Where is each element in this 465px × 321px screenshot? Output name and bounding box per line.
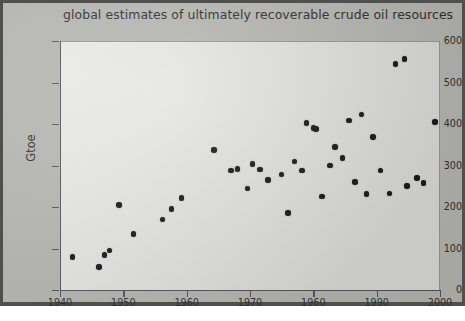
x-tick-label: 1990 [354,297,400,308]
scanned-chart-page: global estimates of ultimately recoverab… [0,0,465,306]
y-tick-label: 200 [418,201,462,212]
x-tick-label: 2000 [417,297,463,308]
x-tick-mark [123,290,124,297]
data-point [116,202,122,208]
data-point [96,264,102,270]
data-point [370,134,376,140]
x-tick-label: 1970 [227,297,273,308]
y-axis-label: Gtoe [24,118,38,178]
data-point [332,144,338,150]
x-tick-label: 1960 [164,297,210,308]
x-tick-mark [313,290,314,297]
x-tick-mark [250,290,251,297]
y-tick-mark [52,290,59,291]
x-tick-label: 1960 [290,297,336,308]
chart-title: global estimates of ultimately recoverab… [63,7,458,22]
y-tick-label: 300 [418,160,462,171]
data-point [228,168,234,174]
data-point [352,179,358,185]
y-tick-mark [52,124,59,125]
x-tick-mark [187,290,188,297]
data-point [265,177,271,183]
x-tick-label: 1950 [100,297,146,308]
y-tick-mark [52,166,59,167]
data-point [131,231,137,237]
data-point [211,147,217,153]
x-tick-mark [377,290,378,297]
data-point [346,118,352,124]
y-tick-mark [52,83,59,84]
data-point [387,191,393,197]
data-point [313,126,319,132]
data-point [304,120,310,126]
y-tick-label: 500 [418,77,462,88]
x-tick-mark [440,290,441,297]
data-point [421,180,427,186]
y-axis-line [60,41,61,291]
data-point [102,252,108,258]
data-point [169,206,175,212]
data-point [327,163,333,169]
x-tick-label: 1940 [37,297,83,308]
y-tick-mark [52,207,59,208]
y-tick-mark [52,249,59,250]
data-point [340,155,346,161]
y-tick-mark [52,41,59,42]
data-point [393,61,399,67]
data-point [299,168,305,174]
data-point [285,210,291,216]
x-tick-mark [60,290,61,297]
y-tick-label: 600 [418,35,462,46]
data-point [432,119,438,125]
y-tick-label: 400 [418,118,462,129]
y-tick-label: 100 [418,243,462,254]
data-point [179,195,185,201]
data-point [414,175,420,181]
data-point [404,183,410,189]
data-point [235,166,241,172]
data-point [70,254,76,260]
